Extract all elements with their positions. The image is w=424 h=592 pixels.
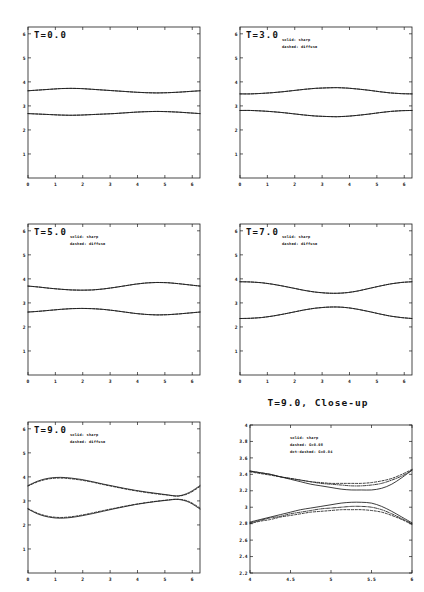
x-tick-label: 5 [163, 379, 166, 384]
y-tick-label: 3 [23, 499, 26, 504]
y-tick-label: 2.6 [239, 538, 248, 543]
y-tick-label: 5 [23, 253, 26, 258]
plot-area-t9: 0123456123456solid: sharpdashed: diffuse… [0, 395, 212, 592]
y-tick-label: 6 [23, 32, 26, 37]
y-tick-label: 3.2 [239, 488, 248, 493]
x-tick-label: 4 [348, 182, 351, 187]
x-tick-label: 5 [163, 577, 166, 582]
x-tick-label: 6 [191, 577, 194, 582]
legend-entry: solid: sharp [282, 38, 310, 42]
x-tick-label: 2 [293, 182, 296, 187]
x-tick-label: 4 [136, 577, 139, 582]
y-tick-label: 4 [235, 277, 238, 282]
x-tick-label: 5 [163, 182, 166, 187]
y-tick-label: 3.6 [239, 456, 248, 461]
x-tick-label: 4 [348, 379, 351, 384]
curve-solid [240, 110, 412, 116]
legend-entry: dashed: diffuse [282, 242, 318, 246]
y-tick-label: 6 [23, 427, 26, 432]
y-tick-label: 3 [23, 104, 26, 109]
x-tick-label: 2 [293, 379, 296, 384]
curve-solid [240, 282, 412, 294]
y-tick-label: 2 [23, 325, 26, 330]
y-tick-label: 6 [235, 32, 238, 37]
x-tick-label: 3 [109, 182, 112, 187]
curve-solid [28, 282, 200, 290]
y-tick-label: 1 [23, 349, 26, 354]
x-tick-label: 5.5 [367, 577, 376, 582]
plot-area-t0: 0123456123456T=0.0 [0, 0, 212, 197]
x-tick-label: 5 [375, 182, 378, 187]
x-tick-label: 4.5 [286, 577, 295, 582]
y-tick-label: 2 [23, 128, 26, 133]
panel-t7: 0123456123456solid: sharpdashed: diffuse… [212, 197, 424, 394]
x-tick-label: 5 [330, 577, 333, 582]
curve-solid [250, 470, 412, 490]
x-tick-label: 3 [321, 379, 324, 384]
figure-canvas: 0123456123456T=0.00123456123456solid: sh… [0, 0, 424, 592]
y-tick-label: 3 [235, 301, 238, 306]
panel-time-label: T=3.0 [246, 30, 279, 40]
plot-area-t3: 0123456123456solid: sharpdashed: diffuse… [212, 0, 424, 197]
x-tick-label: 6 [411, 577, 414, 582]
panel-t0: 0123456123456T=0.0 [0, 0, 212, 197]
curve-dashed [28, 499, 200, 517]
curve-solid [28, 499, 200, 518]
x-tick-label: 2 [81, 182, 84, 187]
x-tick-label: 0 [27, 577, 30, 582]
x-tick-label: 6 [403, 379, 406, 384]
x-tick-label: 6 [191, 379, 194, 384]
x-tick-label: 3 [321, 182, 324, 187]
legend-entry: solid: sharp [290, 436, 318, 440]
y-tick-label: 1 [23, 152, 26, 157]
plot-area-t5: 0123456123456solid: sharpdashed: diffuse… [0, 197, 212, 394]
y-tick-label: 2.2 [239, 571, 248, 576]
panel-t9: 0123456123456solid: sharpdashed: diffuse… [0, 395, 212, 592]
plot-frame [28, 27, 200, 178]
panel-t3: 0123456123456solid: sharpdashed: diffuse… [212, 0, 424, 197]
legend-entry: dashed: diffuse [70, 242, 106, 246]
y-tick-label: 3 [245, 505, 248, 510]
x-tick-label: 4 [136, 182, 139, 187]
y-tick-label: 3 [23, 301, 26, 306]
plot-area-t7: 0123456123456solid: sharpdashed: diffuse… [212, 197, 424, 394]
curve-dashed [28, 478, 200, 496]
x-tick-label: 1 [266, 182, 269, 187]
y-tick-label: 1 [235, 152, 238, 157]
y-tick-label: 2 [235, 325, 238, 330]
x-tick-label: 6 [403, 182, 406, 187]
y-tick-label: 4 [23, 475, 26, 480]
panel-time-label: T=5.0 [34, 227, 67, 237]
y-tick-label: 6 [23, 229, 26, 234]
x-tick-label: 1 [54, 577, 57, 582]
legend-entry: dashed: G=0.08 [290, 443, 323, 447]
x-tick-label: 2 [81, 379, 84, 384]
legend-entry: dashed: diffuse [282, 45, 318, 49]
legend-entry: dot-dashed: G=0.04 [290, 450, 333, 454]
x-tick-label: 4 [249, 577, 252, 582]
y-tick-label: 2 [23, 523, 26, 528]
x-tick-label: 6 [191, 182, 194, 187]
plot-area-t9closeup: 44.555.562.22.42.62.833.23.43.63.84solid… [212, 395, 424, 592]
y-tick-label: 4 [235, 80, 238, 85]
legend-entry: solid: sharp [70, 235, 98, 239]
y-tick-label: 5 [235, 56, 238, 61]
y-tick-label: 5 [23, 56, 26, 61]
y-tick-label: 4 [23, 80, 26, 85]
curve-solid [250, 502, 412, 523]
plot-frame [240, 224, 412, 375]
x-tick-label: 1 [54, 379, 57, 384]
y-tick-label: 3.4 [239, 472, 248, 477]
y-tick-label: 4 [245, 423, 248, 428]
x-tick-label: 1 [266, 379, 269, 384]
x-tick-label: 1 [54, 182, 57, 187]
x-tick-label: 3 [109, 379, 112, 384]
x-tick-label: 0 [27, 182, 30, 187]
panel-title: T=9.0, Close-up [212, 397, 424, 408]
y-tick-label: 3.8 [239, 439, 248, 444]
y-tick-label: 3 [235, 104, 238, 109]
y-tick-label: 4 [23, 277, 26, 282]
x-tick-label: 2 [81, 577, 84, 582]
curve-dashed [28, 308, 200, 314]
plot-frame [28, 422, 200, 573]
